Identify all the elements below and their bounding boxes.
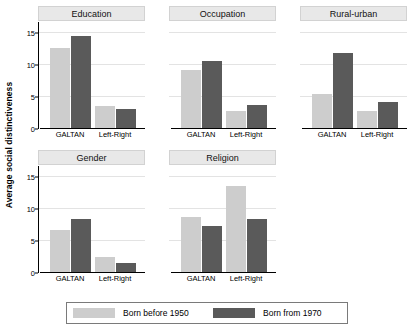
panel-gender: Gender051015GALTANLeft-Right	[16, 150, 147, 290]
chart-figure: Average social distinctiveness Education…	[0, 0, 412, 334]
bar	[202, 61, 222, 128]
y-tick-mark	[35, 96, 38, 97]
plot-area	[169, 22, 276, 129]
bar	[50, 230, 70, 272]
y-axis-line	[38, 22, 39, 129]
y-tick-mark	[35, 64, 38, 65]
gridline	[169, 176, 276, 177]
bar	[95, 106, 115, 128]
y-axis-title: Average social distinctiveness	[2, 0, 16, 290]
x-axis-segment	[216, 272, 276, 273]
plot-area: 051015	[38, 166, 145, 273]
y-tick-mark	[35, 273, 38, 274]
panel-title: Education	[38, 6, 145, 21]
gridline	[38, 176, 145, 177]
y-axis-line	[38, 166, 39, 273]
bar	[312, 94, 332, 128]
y-tick-mark	[35, 129, 38, 130]
gridline	[38, 208, 145, 209]
bar	[181, 217, 201, 272]
legend-label: Born from 1970	[263, 308, 322, 318]
bar	[357, 111, 377, 128]
bar	[333, 53, 353, 128]
y-tick-mark	[35, 208, 38, 209]
x-axis-segment	[347, 128, 407, 129]
bar	[226, 186, 246, 272]
gridline	[169, 208, 276, 209]
plot-area	[300, 22, 407, 129]
panel-title: Religion	[169, 150, 276, 165]
gridline	[300, 32, 407, 33]
x-tick-label: Left-Right	[230, 130, 263, 139]
panel-title: Rural-urban	[300, 6, 407, 21]
bar	[378, 102, 398, 128]
legend-swatch-born-from-1970	[213, 308, 255, 318]
bar	[71, 36, 91, 129]
chart-legend: Born before 1950 Born from 1970	[66, 302, 348, 324]
gridline	[169, 32, 276, 33]
y-tick-mark	[35, 240, 38, 241]
panel-title: Occupation	[169, 6, 276, 21]
gridline	[169, 64, 276, 65]
bar	[50, 48, 70, 128]
x-tick-label: GALTAN	[187, 274, 216, 283]
legend-label: Born before 1950	[123, 308, 189, 318]
plot-area	[169, 166, 276, 273]
bar	[202, 226, 222, 272]
y-tick-mark	[35, 176, 38, 177]
panel-row-top: Education051015GALTANLeft-RightOccupatio…	[16, 6, 412, 146]
x-axis-segment	[85, 128, 145, 129]
gridline	[300, 64, 407, 65]
x-tick-label: GALTAN	[56, 130, 85, 139]
x-tick-label: GALTAN	[318, 130, 347, 139]
bar	[116, 109, 136, 128]
panel-rural-urban: Rural-urbanGALTANLeft-Right	[278, 6, 409, 146]
bar	[247, 219, 267, 272]
bar	[181, 70, 201, 128]
panel-row-bottom: Gender051015GALTANLeft-RightReligionGALT…	[16, 150, 412, 290]
x-tick-label: Left-Right	[99, 130, 132, 139]
panel-occupation: OccupationGALTANLeft-Right	[147, 6, 278, 146]
x-tick-label: Left-Right	[361, 130, 394, 139]
bar	[226, 111, 246, 128]
x-tick-label: Left-Right	[230, 274, 263, 283]
x-axis-segment	[85, 272, 145, 273]
x-axis-segment	[216, 128, 276, 129]
y-tick-mark	[35, 32, 38, 33]
bar	[95, 257, 115, 272]
bar	[116, 263, 136, 272]
x-tick-label: GALTAN	[56, 274, 85, 283]
gridline	[38, 32, 145, 33]
plot-area: 051015	[38, 22, 145, 129]
legend-swatch-born-before-1950	[73, 308, 115, 318]
legend-item: Born before 1950	[67, 308, 207, 318]
bar	[247, 105, 267, 128]
x-tick-label: Left-Right	[99, 274, 132, 283]
panel-education: Education051015GALTANLeft-Right	[16, 6, 147, 146]
panel-religion: ReligionGALTANLeft-Right	[147, 150, 278, 290]
x-tick-label: GALTAN	[187, 130, 216, 139]
legend-item: Born from 1970	[207, 308, 347, 318]
bar	[71, 219, 91, 272]
panel-title: Gender	[38, 150, 145, 165]
